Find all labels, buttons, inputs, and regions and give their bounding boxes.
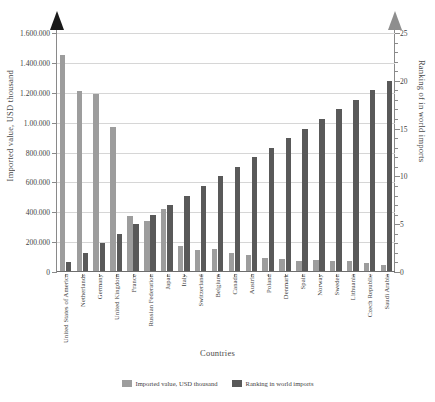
bar-ranking bbox=[336, 109, 341, 272]
right-axis-minor-tick bbox=[395, 234, 398, 235]
bar-ranking bbox=[218, 176, 223, 272]
bar-imported-value bbox=[110, 127, 115, 272]
bar-series-container bbox=[57, 33, 395, 272]
bar-group bbox=[144, 33, 156, 272]
right-axis-minor-tick bbox=[395, 138, 398, 139]
right-axis-minor-tick bbox=[395, 205, 398, 206]
bar-group bbox=[110, 33, 122, 272]
bar-imported-value bbox=[178, 246, 183, 272]
right-axis-minor-tick bbox=[395, 119, 398, 120]
right-axis-minor-tick bbox=[395, 253, 398, 254]
x-axis-category-label: United States of America bbox=[62, 274, 69, 343]
bar-ranking bbox=[319, 119, 324, 272]
right-axis-minor-tick bbox=[395, 186, 398, 187]
bar-ranking bbox=[83, 253, 88, 272]
right-axis-minor-tick bbox=[395, 167, 398, 168]
right-axis-minor-tick bbox=[395, 262, 398, 263]
bar-imported-value bbox=[127, 216, 132, 272]
bar-group bbox=[246, 33, 258, 272]
right-axis-minor-tick bbox=[395, 148, 398, 149]
bar-group bbox=[381, 33, 393, 272]
bar-ranking bbox=[235, 167, 240, 272]
bar-ranking bbox=[269, 148, 274, 272]
right-axis-tick-label: 20 bbox=[400, 76, 408, 85]
bar-imported-value bbox=[93, 94, 98, 272]
x-axis-category-label: Saudi Arabia bbox=[383, 274, 390, 309]
bar-ranking bbox=[184, 196, 189, 272]
x-axis-category-label: Spain bbox=[299, 274, 306, 290]
right-axis-tick-label: 15 bbox=[400, 124, 408, 133]
right-axis-tick-label: 10 bbox=[400, 172, 408, 181]
right-axis-arrow-icon bbox=[388, 11, 402, 30]
bar-group bbox=[262, 33, 274, 272]
x-axis-category-label: Switzerland bbox=[197, 274, 204, 307]
right-axis-minor-tick bbox=[395, 52, 398, 53]
y-axis-title-right: Ranking of in world imports bbox=[417, 60, 427, 162]
x-axis-category-label: Belgium bbox=[214, 274, 221, 297]
bar-group bbox=[77, 33, 89, 272]
bar-group bbox=[127, 33, 139, 272]
chart-legend: Imported value, USD thousandRanking in w… bbox=[0, 380, 435, 387]
right-axis-minor-tick bbox=[395, 43, 398, 44]
x-axis-category-label: Japan bbox=[164, 274, 171, 290]
right-axis-tick-label: 0 bbox=[400, 268, 404, 277]
x-axis-category-labels: United States of AmericaNetherlandsGerma… bbox=[57, 274, 395, 346]
right-axis-tick-mark bbox=[395, 272, 400, 273]
right-axis-minor-tick bbox=[395, 196, 398, 197]
right-axis-tick-mark bbox=[395, 33, 400, 34]
bar-group bbox=[212, 33, 224, 272]
bar-chart: 0200.000400.000600.000800.0001.00.0001.2… bbox=[0, 0, 435, 402]
bar-group bbox=[364, 33, 376, 272]
right-axis-tick-mark bbox=[395, 129, 400, 130]
x-axis-category-label: Denmark bbox=[282, 274, 289, 299]
right-axis-minor-tick bbox=[395, 100, 398, 101]
x-axis-category-label: Czech Republic bbox=[366, 274, 373, 317]
right-axis-minor-tick bbox=[395, 90, 398, 91]
bar-group bbox=[161, 33, 173, 272]
axis-baseline bbox=[57, 271, 395, 272]
bar-ranking bbox=[133, 224, 138, 272]
x-axis-category-label: France bbox=[130, 274, 137, 293]
bar-imported-value bbox=[60, 55, 65, 272]
plot-area bbox=[57, 33, 395, 272]
bar-group bbox=[279, 33, 291, 272]
bar-group bbox=[229, 33, 241, 272]
bar-imported-value bbox=[262, 258, 267, 272]
legend-label: Ranking in world imports bbox=[246, 380, 314, 387]
right-axis-minor-tick bbox=[395, 243, 398, 244]
y-axis-tick-label: 1.600.000 bbox=[4, 29, 50, 38]
x-axis-category-label: Canada bbox=[231, 274, 238, 294]
right-axis-tick-mark bbox=[395, 176, 400, 177]
right-axis-minor-tick bbox=[395, 157, 398, 158]
bar-ranking bbox=[201, 186, 206, 272]
y-axis-tick-label: 400.000 bbox=[4, 208, 50, 217]
bar-ranking bbox=[117, 234, 122, 272]
x-axis-category-label: Poland bbox=[265, 274, 272, 293]
bar-imported-value bbox=[229, 253, 234, 272]
right-axis-tick-label: 5 bbox=[400, 220, 404, 229]
right-axis-minor-tick bbox=[395, 109, 398, 110]
bar-group bbox=[195, 33, 207, 272]
x-axis-category-label: United Kingdom bbox=[113, 274, 120, 320]
legend-swatch bbox=[122, 380, 132, 387]
bar-imported-value bbox=[77, 91, 82, 272]
right-axis-minor-tick bbox=[395, 215, 398, 216]
legend-swatch bbox=[232, 380, 242, 387]
bar-group bbox=[178, 33, 190, 272]
y-axis-title-left: Imported value, USD thousand bbox=[5, 70, 15, 181]
right-axis-tick-mark bbox=[395, 224, 400, 225]
x-axis-category-label: Norway bbox=[316, 274, 323, 296]
bar-ranking bbox=[370, 90, 375, 272]
bar-group bbox=[330, 33, 342, 272]
right-axis-minor-tick bbox=[395, 71, 398, 72]
y-axis-tick-label: 0 bbox=[4, 268, 50, 277]
x-axis-category-label: Sweden bbox=[333, 274, 340, 295]
right-axis-minor-tick bbox=[395, 62, 398, 63]
right-axis-tick-mark bbox=[395, 81, 400, 82]
bar-group bbox=[347, 33, 359, 272]
x-axis-category-label: Germany bbox=[96, 274, 103, 299]
bar-ranking bbox=[252, 157, 257, 272]
legend-item: Ranking in world imports bbox=[232, 380, 314, 387]
bar-ranking bbox=[353, 100, 358, 272]
left-axis-arrow-icon bbox=[50, 11, 64, 30]
